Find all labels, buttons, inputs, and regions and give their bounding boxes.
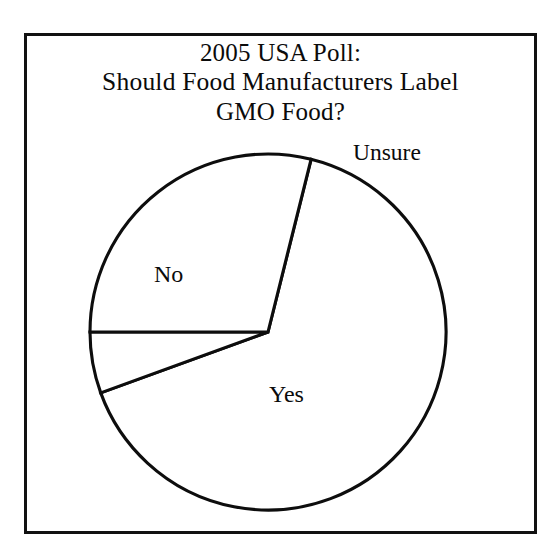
title-line-1: 2005 USA Poll: [24,38,537,67]
figure-root: 2005 USA Poll: Should Food Manufacturers… [0,0,560,560]
title-line-3: GMO Food? [24,97,537,126]
title-line-2: Should Food Manufacturers Label [24,67,537,97]
chart-title: 2005 USA Poll: Should Food Manufacturers… [24,38,537,126]
